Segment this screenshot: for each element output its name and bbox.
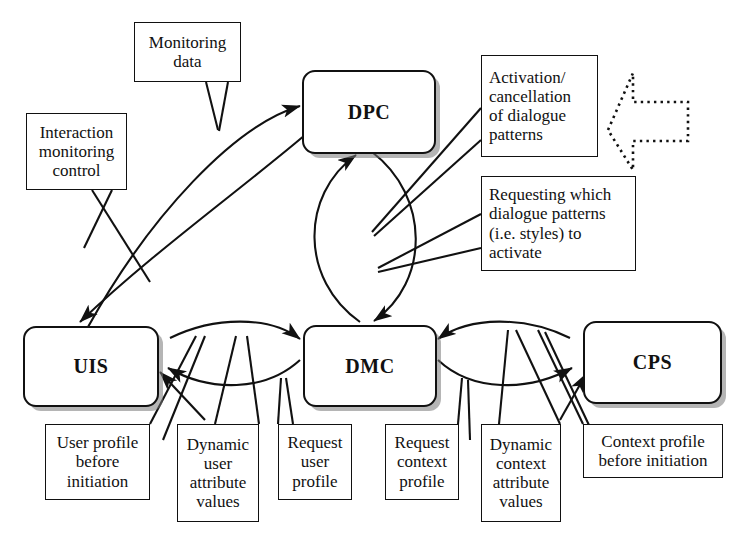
callout-dynamic-context-attribute-values: Dynamic context attribute values xyxy=(481,424,561,522)
callout-line: values xyxy=(187,492,249,511)
leader-request-context-b xyxy=(468,380,470,440)
callout-line: attribute xyxy=(187,473,249,492)
node-dpc-label: DPC xyxy=(348,101,391,124)
callout-line: patterns xyxy=(489,125,571,144)
leader-dynamic-user-a xyxy=(215,336,236,424)
callout-line: User profile xyxy=(57,433,139,452)
edge-dpc-to-dmc xyxy=(372,152,416,321)
callout-line: Context profile xyxy=(598,432,707,451)
callout-line: Requesting which xyxy=(489,185,611,204)
callout-line: control xyxy=(39,161,115,180)
node-uis-label: UIS xyxy=(74,355,109,378)
callout-line: data xyxy=(149,52,226,71)
callout-line: user xyxy=(288,452,343,471)
node-dmc-label: DMC xyxy=(345,355,394,378)
leader-request-user-b xyxy=(286,378,293,424)
callout-line: Dynamic xyxy=(490,435,552,454)
callout-requesting-dialogue-patterns: Requesting which dialogue patterns (i.e.… xyxy=(481,176,636,271)
edge-dmc-to-dpc xyxy=(314,155,360,322)
callout-line: Request xyxy=(288,433,343,452)
callout-monitoring-data: Monitoring data xyxy=(134,22,241,82)
edge-profile-into-uis xyxy=(160,372,205,420)
callout-user-profile-before-initiation: User profile before initiation xyxy=(45,424,150,500)
callout-line: of dialogue xyxy=(489,106,571,125)
callout-line: profile xyxy=(288,472,343,491)
callout-line: (i.e. styles) to xyxy=(489,224,611,243)
diagram-canvas: DPC DMC UIS CPS Monitoring data Interact… xyxy=(0,0,742,543)
node-cps[interactable]: CPS xyxy=(583,321,722,404)
callout-line: Monitoring xyxy=(149,33,226,52)
node-dmc[interactable]: DMC xyxy=(303,325,437,407)
callout-line: cancellation xyxy=(489,87,571,106)
node-dpc[interactable]: DPC xyxy=(302,70,436,154)
callout-line: dialogue patterns xyxy=(489,204,611,223)
leader-dynamic-user-b xyxy=(247,336,259,424)
callout-line: values xyxy=(490,492,552,511)
callout-line: activate xyxy=(489,243,611,262)
callout-activation-cancellation: Activation/ cancellation of dialogue pat… xyxy=(481,55,598,157)
callout-dynamic-user-attribute-values: Dynamic user attribute values xyxy=(177,424,259,522)
leader-request-user-a xyxy=(278,378,281,424)
callout-interaction-monitoring-control: Interaction monitoring control xyxy=(26,113,127,190)
leader-monitoring-data-b xyxy=(219,82,228,131)
callout-request-context-profile: Request context profile xyxy=(385,424,459,500)
leader-monitoring-data-a xyxy=(206,82,218,130)
callout-line: context xyxy=(490,454,552,473)
leader-request-context-a xyxy=(458,378,462,424)
callout-line: before xyxy=(57,452,139,471)
leader-dynamic-context-a xyxy=(499,330,508,424)
callout-line: Request xyxy=(395,433,450,452)
node-uis[interactable]: UIS xyxy=(23,326,159,407)
callout-line: Activation/ xyxy=(489,68,571,87)
edge-cps-to-dmc xyxy=(438,322,570,339)
callout-context-profile-before-initiation: Context profile before initiation xyxy=(583,424,723,478)
callout-line: before initiation xyxy=(598,451,707,470)
callout-line: initiation xyxy=(57,472,139,491)
leader-context-profile-a xyxy=(538,330,583,424)
callout-line: monitoring xyxy=(39,142,115,161)
callout-line: context xyxy=(395,452,450,471)
callout-line: Interaction xyxy=(39,123,115,142)
callout-line: user xyxy=(187,454,249,473)
external-input-arrow-icon xyxy=(600,45,710,175)
node-cps-label: CPS xyxy=(633,351,672,374)
callout-line: attribute xyxy=(490,473,552,492)
callout-line: Dynamic xyxy=(187,435,249,454)
callout-line: profile xyxy=(395,472,450,491)
callout-request-user-profile: Request user profile xyxy=(278,424,352,500)
